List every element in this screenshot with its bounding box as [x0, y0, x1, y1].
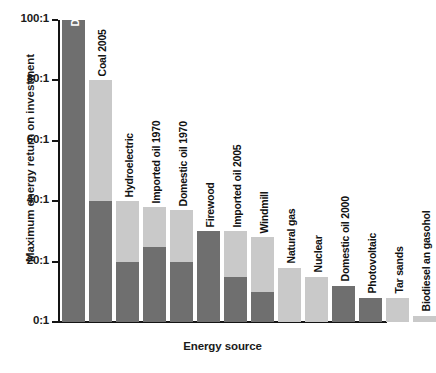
bar-segment-lower	[62, 20, 85, 322]
bar-segment-upper	[278, 268, 301, 322]
y-tick-label: 40:1	[27, 193, 49, 205]
bar-label: Hydroelectric	[124, 133, 135, 198]
bar-segment-upper	[305, 277, 328, 322]
bar-segment-lower	[224, 277, 247, 322]
bar-segment-lower	[332, 286, 355, 322]
bar-segment-upper	[116, 201, 139, 261]
bar-segment-upper	[89, 80, 112, 201]
bar-segment-lower	[116, 262, 139, 322]
bar-domestic-oil-2000	[332, 286, 355, 322]
bar-segment-upper	[224, 231, 247, 276]
y-tick-label: 80:1	[27, 72, 49, 84]
bar-label: Domestic oil 1970	[178, 121, 189, 206]
bar-segment-lower	[89, 201, 112, 322]
bar-tar-sands	[386, 298, 409, 322]
y-tick-label: 20:1	[27, 254, 49, 266]
y-tick-label: 100:1	[21, 12, 49, 24]
x-axis-title: Energy source	[58, 340, 387, 352]
bar-segment-upper	[386, 298, 409, 322]
bar-segment-upper	[413, 316, 436, 322]
bar-segment-lower	[143, 247, 166, 323]
bar-imported-oil-1970	[143, 207, 166, 322]
bar-photovoltaic	[359, 298, 382, 322]
bar-coal-2005	[89, 80, 112, 322]
y-tick-label: 0:1	[33, 314, 49, 326]
bar-segment-upper	[251, 237, 274, 291]
bar-label: Tar sands	[394, 247, 405, 294]
bar-natural-gas	[278, 268, 301, 322]
bar-segment-upper	[170, 210, 193, 261]
bar-label: Photovoltaic	[367, 233, 378, 294]
bar-domestic-oil-1970	[170, 210, 193, 322]
bar-segment-lower	[251, 292, 274, 322]
bar-label: Nuclear	[313, 236, 324, 273]
bar-label: Domestic oil 2000	[340, 196, 351, 281]
bar-biodiesel-an-gasohol	[413, 316, 436, 322]
bar-label: Imported oil 1970	[151, 120, 162, 203]
bar-domestic-oil-1930	[62, 20, 85, 322]
bar-label: Coal 2005	[97, 29, 108, 76]
bar-label: Windmill	[259, 191, 270, 233]
bar-hydroelectric	[116, 201, 139, 322]
plot-area: Domestic oil 1930Coal 2005HydroelectricI…	[60, 20, 387, 322]
bar-windmill	[251, 237, 274, 322]
bar-label: Natural gas	[286, 209, 297, 264]
bar-segment-lower	[359, 298, 382, 322]
bar-label: Domestic oil 1930	[70, 0, 81, 26]
bar-label: Imported oil 2005	[232, 144, 243, 227]
bar-firewood	[197, 231, 220, 322]
bar-label: Biodiesel an gasohol	[421, 211, 432, 312]
bar-imported-oil-2005	[224, 231, 247, 322]
bar-nuclear	[305, 277, 328, 322]
bar-label: Firewood	[205, 182, 216, 227]
bar-segment-lower	[197, 231, 220, 322]
bar-segment-upper	[143, 207, 166, 246]
bar-segment-lower	[170, 262, 193, 322]
y-axis-ticks: 100:180:160:140:120:10:1	[0, 0, 58, 373]
y-tick-label: 60:1	[27, 133, 49, 145]
